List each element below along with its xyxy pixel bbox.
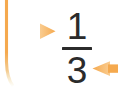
fraction-denominator: 3: [67, 52, 88, 89]
arrow-right-icon: [40, 23, 56, 39]
arrow-left-tail: [108, 64, 118, 72]
fraction-numerator: 1: [67, 8, 88, 45]
diagram-canvas: 1 3: [0, 0, 118, 97]
branch-spine-line: [7, 0, 14, 86]
fraction-one-third: 1 3: [58, 4, 96, 92]
